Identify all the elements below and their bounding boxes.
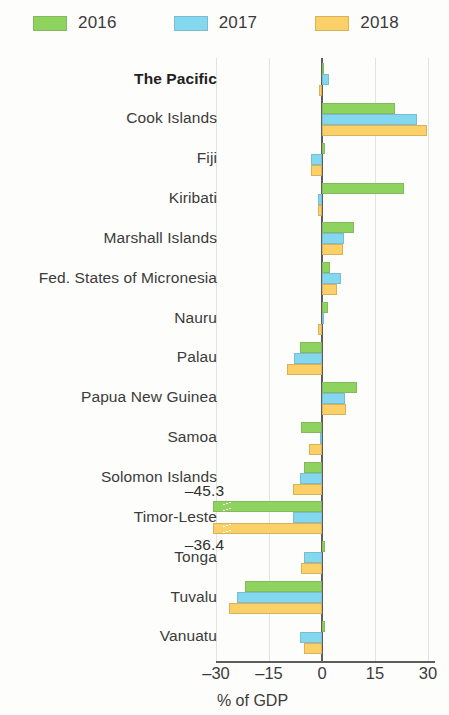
bar-2018-0 (319, 85, 322, 96)
axis-break-marker (222, 523, 231, 534)
x-tick-label-0: –30 (202, 664, 230, 683)
bar-2016-0 (322, 63, 324, 74)
legend-label-2018: 2018 (360, 13, 399, 33)
bar-2018-5 (322, 284, 337, 295)
plot-area: The PacificCook IslandsFijiKiribatiMarsh… (0, 58, 449, 658)
bar-2016-6 (322, 302, 328, 313)
bar-group-vanuatu: Vanuatu (0, 621, 449, 654)
category-label-14: Vanuatu (160, 627, 217, 645)
legend-swatch-2016-icon (33, 16, 67, 31)
x-tick-label-1: –15 (255, 664, 283, 683)
bar-2016-7 (300, 342, 322, 353)
bar-2016-14 (322, 621, 325, 632)
x-axis-line (216, 661, 435, 663)
bar-rows: The PacificCook IslandsFijiKiribatiMarsh… (0, 58, 449, 661)
bar-2018-9 (309, 444, 322, 455)
bar-2017-8 (322, 393, 345, 404)
category-label-0: The Pacific (134, 70, 217, 88)
bar-group-papua-new-guinea: Papua New Guinea (0, 382, 449, 415)
category-label-7: Palau (177, 348, 217, 366)
bar-2017-3 (318, 194, 322, 205)
bar-2016-12 (322, 541, 325, 552)
category-label-1: Cook Islands (126, 109, 217, 127)
bar-2017-0 (322, 74, 329, 85)
category-label-9: Samoa (167, 428, 217, 446)
bar-2016-10 (304, 462, 322, 473)
bar-2016-1 (322, 103, 395, 114)
bar-2018-10 (293, 484, 322, 495)
bar-2018-13 (229, 603, 322, 614)
bar-2018-2 (311, 165, 322, 176)
grouped-bar-chart: 2016 2017 2018 The PacificCook IslandsFi… (0, 0, 449, 715)
bar-2016-8 (322, 382, 357, 393)
bar-group-timor-leste: Timor-Leste (0, 501, 449, 534)
bar-2017-5 (322, 273, 341, 284)
bar-2018-8 (322, 404, 346, 415)
bar-2018-14 (304, 643, 322, 654)
x-tick-label-4: 30 (419, 664, 437, 683)
category-label-2: Fiji (197, 149, 217, 167)
axis-break-marker (222, 501, 231, 512)
bar-2018-1 (322, 125, 427, 136)
bar-2018-7 (287, 364, 322, 375)
bar-2018-4 (322, 244, 343, 255)
bar-2017-10 (300, 473, 322, 484)
bar-group-fiji: Fiji (0, 143, 449, 176)
bar-2017-11 (293, 512, 322, 523)
bar-2016-9 (301, 422, 322, 433)
bar-group-tuvalu: Tuvalu (0, 581, 449, 614)
bar-2018-12 (301, 563, 322, 574)
bar-2016-5 (322, 262, 330, 273)
x-axis-ticks: –30–1501530 (0, 664, 449, 688)
bar-group-tonga: Tonga (0, 541, 449, 574)
legend-swatch-2018-icon (315, 16, 349, 31)
chart-legend: 2016 2017 2018 (0, 0, 449, 46)
legend-label-2017: 2017 (219, 13, 258, 33)
bar-2017-9 (320, 433, 322, 444)
bar-group-nauru: Nauru (0, 302, 449, 335)
bar-2017-7 (294, 353, 322, 364)
bar-group-cook-islands: Cook Islands (0, 103, 449, 136)
value-annotation-timor-leste-2018: –36.4 (185, 536, 224, 554)
bar-group-fed-states-of-micronesia: Fed. States of Micronesia (0, 262, 449, 295)
bar-group-kiribati: Kiribati (0, 183, 449, 216)
x-tick-label-2: 0 (317, 664, 326, 683)
bar-2017-1 (322, 114, 417, 125)
x-tick-label-3: 15 (366, 664, 384, 683)
category-label-13: Tuvalu (170, 588, 217, 606)
bar-2016-13 (245, 581, 322, 592)
category-label-11: Timor-Leste (134, 508, 217, 526)
bar-2016-4 (322, 222, 354, 233)
legend-item-2018: 2018 (315, 13, 399, 33)
legend-swatch-2017-icon (174, 16, 208, 31)
bar-2016-3 (322, 183, 404, 194)
bar-2017-14 (300, 632, 322, 643)
x-axis-title: % of GDP (0, 692, 449, 710)
bar-group-marshall-islands: Marshall Islands (0, 222, 449, 255)
bar-group-palau: Palau (0, 342, 449, 375)
bar-2018-3 (318, 205, 322, 216)
category-label-4: Marshall Islands (103, 229, 217, 247)
bar-group-samoa: Samoa (0, 422, 449, 455)
bar-2017-12 (304, 552, 322, 563)
category-label-6: Nauru (174, 309, 217, 327)
legend-label-2016: 2016 (78, 13, 117, 33)
category-label-5: Fed. States of Micronesia (39, 269, 217, 287)
legend-item-2016: 2016 (33, 13, 117, 33)
bar-group-the-pacific: The Pacific (0, 63, 449, 96)
bar-2017-4 (322, 233, 344, 244)
value-annotation-timor-leste-2016: –45.3 (185, 482, 224, 500)
bar-2017-13 (237, 592, 322, 603)
bar-2016-2 (322, 143, 325, 154)
x-axis-title-text: % of GDP (217, 692, 288, 709)
category-label-3: Kiribati (169, 189, 217, 207)
bar-2018-6 (318, 324, 322, 335)
bar-2017-2 (311, 154, 322, 165)
bar-group-solomon-islands: Solomon Islands (0, 462, 449, 495)
category-label-8: Papua New Guinea (81, 388, 217, 406)
legend-item-2017: 2017 (174, 13, 258, 33)
bar-2017-6 (322, 313, 324, 324)
